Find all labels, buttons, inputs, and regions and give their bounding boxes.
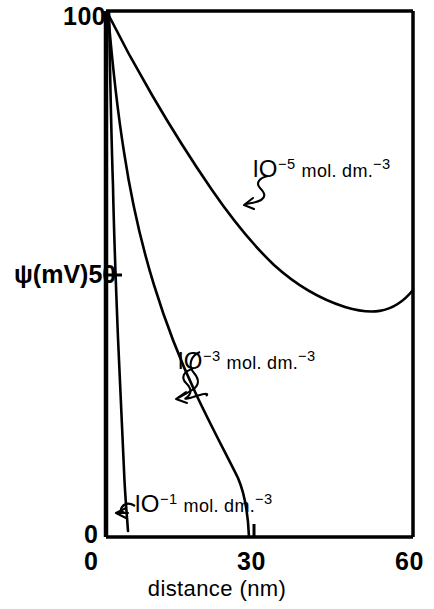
curve-annotation-1e-1-exponent: −1 [160, 491, 178, 507]
curve-annotation-1e-1: lO−1 mol. dm.−3 [135, 492, 273, 516]
plot-frame [106, 11, 413, 537]
curve-annotation-1e-1-base: lO [135, 490, 160, 517]
curve-annotation-1e-5-units-exponent: −3 [373, 156, 391, 172]
xtick-label-0: 0 [84, 549, 98, 574]
curve-annotation-1e-3: lO−3 mol. dm.−3 [178, 349, 316, 373]
curve-annotation-1e-3-units: mol. dm. [227, 353, 298, 373]
curve-annotation-1e-1-units-exponent: −3 [255, 491, 273, 507]
y-axis-caption: ψ(mV) [14, 260, 88, 288]
curve-annotation-1e-5-units: mol. dm. [302, 161, 373, 181]
curve-annotation-1e-5-exponent: −5 [278, 156, 296, 172]
curve-annotation-1e-3-base: lO [178, 347, 203, 374]
xtick-label-30: 30 [237, 549, 266, 574]
x-axis-title: distance (nm) [0, 578, 434, 600]
chart-figure: 100 ψ(mV)50 0 0 30 60 distance (nm) lO−5… [0, 0, 434, 609]
curve-1e-3 [108, 12, 249, 537]
curve-annotation-1e-5-base: lO [253, 155, 278, 182]
y-axis-caption-group: ψ(mV)50 [14, 262, 116, 287]
ytick-label-0: 0 [84, 522, 98, 547]
ytick-label-50: 50 [88, 260, 116, 288]
curve-annotation-1e-3-exponent: −3 [203, 348, 221, 364]
curve-annotation-1e-3-units-exponent: −3 [298, 348, 316, 364]
curve-annotation-1e-1-units: mol. dm. [184, 496, 255, 516]
xtick-label-60: 60 [395, 549, 424, 574]
ytick-label-100: 100 [63, 4, 106, 29]
chart-svg [0, 0, 434, 609]
curve-annotation-1e-5: lO−5 mol. dm.−3 [253, 157, 391, 181]
